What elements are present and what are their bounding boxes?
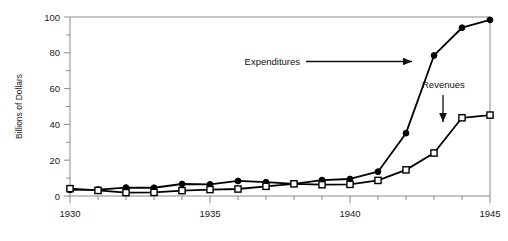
data-point-expenditures: [403, 130, 409, 136]
data-point-revenues: [375, 177, 381, 183]
y-axis-label: Billions of Dollars: [14, 74, 24, 139]
data-point-revenues: [67, 186, 73, 192]
data-point-revenues: [207, 186, 213, 192]
data-point-revenues: [179, 188, 185, 194]
x-tick-label: 1940: [339, 208, 360, 219]
data-point-revenues: [263, 183, 269, 189]
y-tick-label: 20: [49, 155, 60, 166]
x-tick-label: 1935: [199, 208, 220, 219]
data-point-revenues: [151, 189, 157, 195]
series-line-revenues: [70, 115, 490, 193]
line-chart: 0204060801001930193519401945Billions of …: [0, 0, 508, 241]
data-point-revenues: [487, 112, 493, 118]
data-point-expenditures: [459, 25, 465, 31]
y-tick-label: 40: [49, 119, 60, 130]
data-point-expenditures: [235, 178, 241, 184]
y-tick-label: 60: [49, 83, 60, 94]
x-tick-label: 1945: [479, 208, 500, 219]
y-tick-label: 100: [44, 12, 60, 23]
y-tick-label: 0: [55, 191, 60, 202]
y-tick-label: 80: [49, 47, 60, 58]
data-point-revenues: [123, 189, 129, 195]
data-point-revenues: [403, 167, 409, 173]
data-point-revenues: [347, 181, 353, 187]
data-point-revenues: [319, 182, 325, 188]
data-point-expenditures: [375, 169, 381, 175]
x-tick-label: 1930: [59, 208, 80, 219]
data-point-revenues: [291, 181, 297, 187]
annotation-label-expenditures: Expenditures: [245, 56, 301, 67]
chart-container: 0204060801001930193519401945Billions of …: [0, 0, 508, 241]
data-point-revenues: [95, 187, 101, 193]
series-line-expenditures: [70, 20, 490, 190]
data-point-revenues: [459, 115, 465, 121]
data-point-expenditures: [487, 17, 493, 23]
annotation-label-revenues: Revenues: [422, 79, 465, 90]
data-point-expenditures: [431, 53, 437, 59]
data-point-revenues: [235, 186, 241, 192]
data-point-revenues: [431, 150, 437, 156]
data-point-expenditures: [179, 181, 185, 187]
